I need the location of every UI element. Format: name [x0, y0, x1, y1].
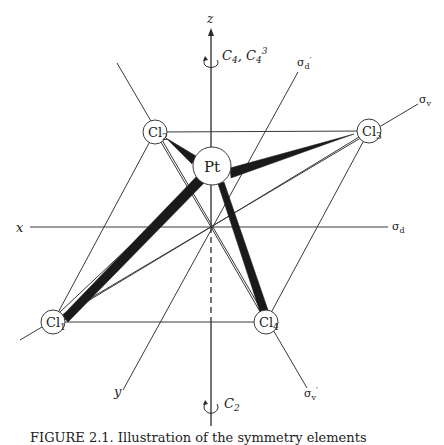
c2-label: C2	[224, 396, 240, 413]
y-axis-label: y	[113, 384, 122, 399]
bond-pt-cl2	[166, 138, 196, 164]
atom-pt: Pt	[193, 147, 231, 185]
c4-label: C4, C43	[222, 46, 268, 65]
x-axis-label: x	[16, 220, 24, 235]
bond-pt-cl3	[230, 134, 354, 178]
sigma-v-prime-line	[117, 63, 307, 388]
cl2-cl3-edge-line	[155, 131, 369, 132]
svg-text:Pt: Pt	[204, 158, 220, 176]
sigma-d-label: σd	[392, 220, 405, 235]
atom-cl1: Cl1	[41, 310, 66, 334]
bond-pt-cl4	[218, 182, 268, 312]
sigma-d-prime-label: σd′	[297, 55, 312, 71]
atom-cl4: Cl4	[254, 310, 279, 334]
z-axis-label: z	[206, 12, 214, 26]
atom-cl2: Cl2	[143, 120, 168, 144]
sigma-v-label: σv	[419, 93, 432, 108]
figure-caption: FIGURE 2.1. Illustration of the symmetry…	[30, 430, 367, 445]
atom-cl3: Cl3	[357, 119, 382, 143]
bond-pt-cl1	[62, 176, 205, 322]
z-axis-arrowhead	[208, 28, 214, 36]
sigma-v-prime-label: σv′	[304, 385, 318, 402]
